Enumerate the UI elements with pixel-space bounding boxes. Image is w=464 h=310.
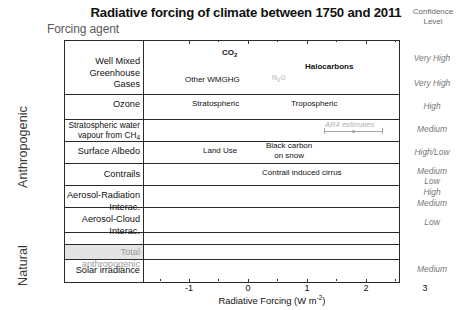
axis-tick-label-2: 2	[353, 283, 379, 293]
row-separator-stratwv	[64, 141, 400, 142]
annotation-ar4-estimates: AR4 estimates	[325, 120, 374, 129]
annotation-tropospheric: Tropospheric	[291, 99, 337, 109]
tick-bottom-0.5	[277, 279, 278, 281]
rowlabel-strat-water-vapour: Stratospheric water vapour from CH4	[66, 120, 140, 141]
tick-bottom--0.5	[218, 279, 219, 281]
tick-top-2.5	[395, 40, 396, 42]
annotation-bc-line1: Black carbon	[266, 141, 312, 151]
confidence-solar-irradiance: Medium	[402, 264, 462, 274]
rowlabel-swv-line2: vapour from CH4	[66, 130, 140, 140]
confidence-contrails: Medium	[402, 166, 462, 176]
confidence-wmghg-co2: Very High	[402, 53, 462, 63]
page-title: Radiative forcing of climate between 175…	[86, 6, 406, 20]
annotation-n2o-tail: O	[280, 74, 285, 81]
tick-top-2	[366, 40, 367, 44]
annotation-n2o-sub: 2	[277, 77, 280, 83]
side-label-natural: Natural	[16, 236, 30, 296]
tick-top--1	[189, 40, 190, 44]
confidence-strat-water: Medium	[402, 124, 462, 134]
rowlabel-aerosol-radiation: Aerosol-Radiation Interac.	[66, 190, 140, 213]
label-plot-divider	[143, 40, 144, 283]
tick-bottom-1.5	[336, 279, 337, 281]
annotation-stratospheric: Stratospheric	[192, 99, 239, 109]
ar4-legend-cap-right	[382, 128, 383, 134]
rowlabel-surface-albedo: Surface Albedo	[66, 146, 140, 158]
axis-tick-label-1: 1	[294, 283, 320, 293]
row-separator-contrails	[64, 185, 400, 186]
row-separator-albedo	[64, 163, 400, 164]
tick-top-0	[248, 40, 249, 44]
annotation-bc-line2: on snow	[266, 151, 312, 161]
axis-tick-label-3: 3	[412, 283, 438, 293]
axis-title-text: Radiative Forcing (W m	[219, 295, 317, 306]
rowlabel-swv-sub: 4	[136, 134, 140, 141]
confidence-aerosol-radiation: High	[402, 187, 462, 197]
annotation-ch4: CH4	[252, 74, 267, 84]
rowlabel-wmghg-line2: Greenhouse Gases	[66, 68, 140, 91]
rowlabel-ozone: Ozone	[66, 99, 140, 111]
axis-title-close: )	[322, 295, 325, 306]
rowlabel-swv-line1: Stratospheric water	[66, 120, 140, 130]
ar4-legend-cap-left	[324, 128, 325, 134]
tick-bottom-2.5	[395, 279, 396, 281]
confidence-header-line1: Confidence	[404, 7, 462, 17]
rowlabel-wmghg-line1: Well Mixed	[66, 56, 140, 68]
confidence-level-header: Confidence Level	[404, 7, 462, 27]
confidence-aerosol-cloud: Low	[402, 217, 462, 227]
axis-tick-label-0: 0	[235, 283, 261, 293]
annotation-co2: CO2	[222, 48, 237, 58]
rowlabel-swv-line2-text: vapour from CH	[78, 130, 137, 140]
annotation-other-wmghg: Other WMGHG	[185, 75, 240, 85]
rowlabel-contrails: Contrails	[66, 169, 140, 181]
annotation-ch4-text: CH	[252, 74, 264, 83]
annotation-halocarbons: Halocarbons	[305, 62, 353, 72]
tick-top-0.5	[277, 40, 278, 42]
confidence-contrails-low: Low	[402, 176, 462, 186]
forcing-agent-header: Forcing agent	[47, 22, 119, 36]
annotation-n2o: N2O	[272, 74, 286, 82]
annotation-ch4-sub: 4	[264, 78, 267, 84]
row-separator-wmghg	[64, 94, 400, 95]
figure-root: Radiative forcing of climate between 175…	[0, 0, 464, 310]
axis-tick-label--1: -1	[176, 283, 202, 293]
annotation-co2-text: CO	[222, 48, 234, 57]
axis-title: Radiative Forcing (W m-2)	[144, 294, 400, 306]
rowlabel-wmghg: Well Mixed Greenhouse Gases	[66, 56, 140, 91]
confidence-wmghg-other: Very High	[402, 78, 462, 88]
tick-top--0.5	[218, 40, 219, 42]
confidence-aerosol-radiation-medium: Medium	[402, 198, 462, 208]
tick-top-1.5	[336, 40, 337, 42]
annotation-contrail-cirrus: Contrail induced cirrus	[262, 168, 342, 178]
confidence-ozone: High	[402, 101, 462, 111]
rowlabel-aerosol-cloud: Aerosol-Cloud Interac.	[66, 214, 140, 237]
tick-top-1	[307, 40, 308, 44]
rowlabel-solar-irradiance: Solar irradiance	[66, 265, 140, 277]
side-label-anthropogenic: Anthropogenic	[16, 58, 30, 236]
annotation-black-carbon-snow: Black carbon on snow	[266, 141, 312, 160]
confidence-header-line2: Level	[404, 17, 462, 27]
tick-bottom--1.5	[160, 279, 161, 281]
confidence-surface-albedo: High/Low	[402, 147, 462, 157]
annotation-co2-sub: 2	[234, 52, 237, 58]
annotation-land-use: Land Use	[203, 146, 237, 156]
